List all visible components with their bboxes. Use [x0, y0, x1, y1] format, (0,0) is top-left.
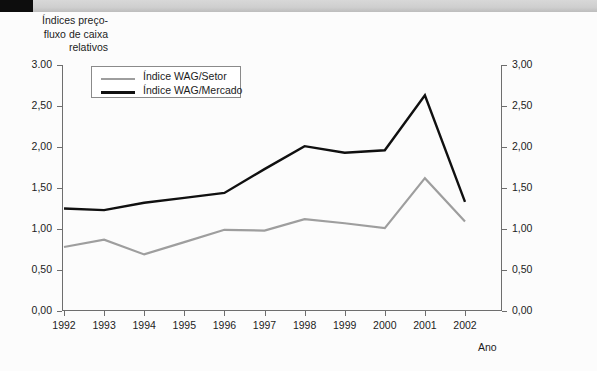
x-axis-label: 2001: [405, 319, 445, 331]
chart-legend: Índice WAG/SetorÍndice WAG/Mercado: [91, 66, 241, 98]
y-tick-right: [502, 311, 507, 312]
x-tick: [265, 311, 266, 316]
x-axis-label: 1999: [325, 319, 365, 331]
y-tick-right: [502, 229, 507, 230]
x-tick: [64, 311, 65, 316]
y-tick-left: [57, 188, 62, 189]
y-axis-label-left: 3.00: [18, 58, 52, 70]
legend-label: Índice WAG/Setor: [143, 70, 227, 82]
y-tick-right: [502, 147, 507, 148]
y-axis-label-left: 0,00: [18, 304, 52, 316]
x-axis-label: 1993: [84, 319, 124, 331]
y-tick-right: [502, 106, 507, 107]
legend-swatch: [101, 78, 135, 80]
y-tick-left: [57, 229, 62, 230]
x-axis-label: 2002: [445, 319, 485, 331]
plot-area: [62, 65, 502, 311]
y-tick-left: [57, 147, 62, 148]
y-tick-right: [502, 188, 507, 189]
y-axis-label-right: 0,00: [512, 304, 532, 316]
x-tick: [144, 311, 145, 316]
x-axis-title: Ano: [478, 341, 497, 353]
x-tick: [184, 311, 185, 316]
y-axis-label-left: 2,00: [18, 140, 52, 152]
x-tick: [104, 311, 105, 316]
series-lines: [62, 65, 502, 311]
legend-swatch: [101, 91, 135, 94]
x-tick: [425, 311, 426, 316]
y-tick-left: [57, 270, 62, 271]
y-axis-label-right: 1,50: [512, 181, 532, 193]
y-axis-label-left: 1,50: [18, 181, 52, 193]
series-line-2: [64, 95, 465, 210]
x-axis-label: 1992: [44, 319, 84, 331]
x-tick: [345, 311, 346, 316]
x-axis-label: 1994: [124, 319, 164, 331]
y-axis-label-right: 0,50: [512, 263, 532, 275]
x-tick: [305, 311, 306, 316]
x-tick: [224, 311, 225, 316]
y-tick-right: [502, 270, 507, 271]
y-axis-label-left: 1,00: [18, 222, 52, 234]
x-axis-label: 1997: [245, 319, 285, 331]
y-tick-left: [57, 311, 62, 312]
series-line-1: [64, 178, 465, 254]
x-tick: [385, 311, 386, 316]
y-axis-label-right: 3,00: [512, 58, 532, 70]
chart-title: Índices preço- fluxo de caixa relativos: [8, 14, 108, 55]
y-axis-label-right: 2,00: [512, 140, 532, 152]
y-axis-label-right: 1,00: [512, 222, 532, 234]
legend-item: Índice WAG/Mercado: [92, 86, 240, 101]
x-axis-label: 1996: [204, 319, 244, 331]
y-axis-label-left: 2,50: [18, 99, 52, 111]
header-bar: [0, 0, 597, 12]
legend-label: Índice WAG/Mercado: [143, 84, 242, 96]
y-tick-left: [57, 106, 62, 107]
chart-page: Índices preço- fluxo de caixa relativos …: [0, 0, 597, 371]
y-axis-label-left: 0,50: [18, 263, 52, 275]
header-black-block: [0, 0, 33, 12]
y-axis-label-right: 2,50: [512, 99, 532, 111]
x-axis-label: 1998: [285, 319, 325, 331]
x-axis-label: 1995: [164, 319, 204, 331]
x-tick: [465, 311, 466, 316]
y-tick-right: [502, 65, 507, 66]
y-tick-left: [57, 65, 62, 66]
x-axis-label: 2000: [365, 319, 405, 331]
